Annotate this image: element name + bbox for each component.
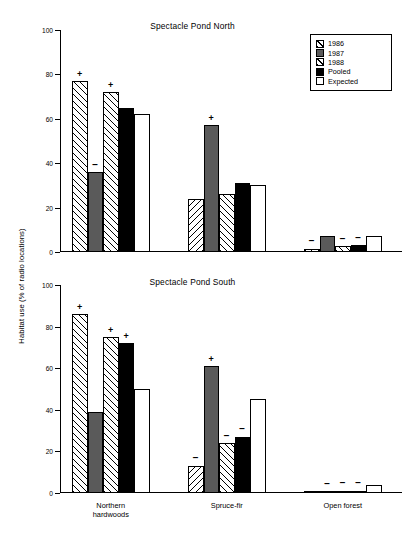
y-tick	[55, 30, 60, 31]
y-axis-title: Habitat use (% of radio locations)	[17, 0, 26, 186]
bar-group-northern-hardwoods: +++	[72, 285, 150, 493]
bar-pooled-2	[235, 437, 251, 493]
legend: 198619871988PooledExpected	[310, 34, 392, 91]
bar-1987-2	[204, 366, 220, 493]
y-tick	[55, 285, 60, 286]
bar-expected-3	[366, 485, 382, 493]
bar-1987-3	[320, 491, 336, 493]
significance-marker: −	[219, 431, 235, 441]
y-tick-label: 60	[46, 365, 53, 372]
y-axis-line-north	[60, 30, 61, 252]
bar-1987-3	[320, 236, 336, 252]
bar-1987-1	[88, 172, 104, 252]
significance-marker: −	[351, 233, 367, 243]
x-axis-label-northern-hardwoods: Northernhardwoods	[56, 501, 166, 520]
significance-marker: −	[88, 160, 104, 170]
y-tick-label: 40	[46, 406, 53, 413]
bar-1988-1	[103, 337, 119, 493]
bar-1988-3	[335, 491, 351, 493]
legend-swatch-1987-icon	[316, 49, 324, 57]
y-tick-label: 40	[46, 160, 53, 167]
bar-pooled-2	[235, 183, 251, 252]
y-tick-label: 0	[49, 490, 53, 497]
x-axis-label-spruce-fir: Spruce-fir	[172, 501, 282, 510]
bar-pooled-1	[119, 108, 135, 252]
significance-marker: −	[335, 478, 351, 488]
legend-label: 1988	[328, 58, 344, 67]
y-tick-label: 20	[46, 448, 53, 455]
significance-marker: −	[351, 478, 367, 488]
bar-1987-2	[204, 125, 220, 252]
significance-marker: −	[235, 424, 251, 434]
panel-spectacle-pond-south: Spectacle Pond South 020406080100+++−+−−…	[60, 285, 390, 493]
y-tick-label: 20	[46, 204, 53, 211]
bar-1988-1	[103, 92, 119, 252]
legend-swatch-1988-icon	[316, 58, 324, 66]
legend-swatch-expected-icon	[316, 77, 324, 85]
y-tick-label: 80	[46, 71, 53, 78]
significance-marker: +	[72, 70, 88, 79]
bar-1986-3	[304, 249, 320, 252]
legend-item-1988: 1988	[316, 58, 386, 67]
y-tick-label: 100	[42, 282, 53, 289]
legend-item-pooled: Pooled	[316, 67, 386, 76]
legend-item-1987: 1987	[316, 48, 386, 57]
y-tick	[55, 451, 60, 452]
legend-swatch-1986-icon	[316, 40, 324, 48]
legend-label: Pooled	[328, 67, 350, 76]
significance-marker: +	[72, 303, 88, 312]
figure-habitat-use: Habitat use (% of radio locations) Spect…	[0, 0, 403, 547]
bar-1986-1	[72, 314, 88, 493]
y-tick	[55, 119, 60, 120]
y-tick	[55, 368, 60, 369]
legend-label: 1987	[328, 49, 344, 58]
y-tick	[55, 327, 60, 328]
bar-group-spruce-fir: −+−−	[188, 285, 266, 493]
bar-group-spruce-fir: +	[188, 30, 266, 252]
bar-pooled-3	[351, 245, 367, 252]
bar-1988-2	[219, 443, 235, 493]
y-tick-label: 0	[49, 249, 53, 256]
y-tick	[55, 410, 60, 411]
legend-item-expected: Expected	[316, 77, 386, 86]
bar-expected-2	[250, 399, 266, 493]
bar-1986-3	[304, 491, 320, 493]
bar-1988-2	[219, 194, 235, 252]
bar-group-northern-hardwoods: +−+	[72, 30, 150, 252]
legend-label: 1986	[328, 39, 344, 48]
bar-1988-3	[335, 246, 351, 252]
legend-swatch-pooled-icon	[316, 68, 324, 76]
bar-expected-1	[134, 389, 150, 493]
y-tick	[55, 208, 60, 209]
y-tick	[55, 74, 60, 75]
significance-marker: +	[119, 332, 135, 341]
x-axis-label-open-forest: Open forest	[288, 501, 398, 510]
y-axis-line-south	[60, 285, 61, 493]
bar-pooled-1	[119, 343, 135, 493]
bar-pooled-3	[351, 491, 367, 493]
y-tick	[55, 163, 60, 164]
legend-label: Expected	[328, 77, 358, 86]
bar-1986-1	[72, 81, 88, 252]
significance-marker: +	[204, 114, 220, 123]
bar-group-open-forest: −−−	[304, 285, 382, 493]
y-tick	[55, 493, 60, 494]
significance-marker: +	[103, 326, 119, 335]
plot-area-south: 020406080100+++−+−−−−−NorthernhardwoodsS…	[60, 285, 390, 493]
significance-marker: −	[320, 479, 336, 489]
bar-1986-2	[188, 466, 204, 493]
significance-marker: +	[204, 355, 220, 364]
significance-marker: +	[103, 81, 119, 90]
y-tick	[55, 252, 60, 253]
y-tick-label: 100	[42, 27, 53, 34]
bar-expected-3	[366, 236, 382, 252]
legend-item-1986: 1986	[316, 39, 386, 48]
significance-marker: −	[335, 234, 351, 244]
y-tick-label: 60	[46, 115, 53, 122]
bar-expected-1	[134, 114, 150, 252]
bar-expected-2	[250, 185, 266, 252]
bar-1987-1	[88, 412, 104, 493]
bar-1986-2	[188, 199, 204, 252]
significance-marker: −	[304, 236, 320, 246]
y-tick-label: 80	[46, 323, 53, 330]
